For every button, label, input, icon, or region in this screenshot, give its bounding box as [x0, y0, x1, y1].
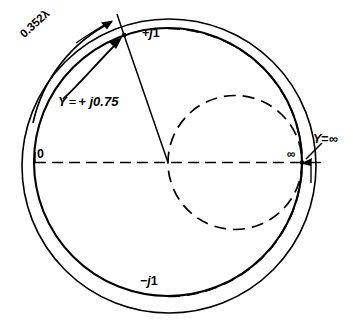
susceptance-bottom-label: −j1: [140, 275, 158, 288]
admittance-value: + j0.75: [78, 94, 118, 109]
susceptance-bottom-value: 1: [151, 274, 158, 288]
infinity-point-marker: [300, 160, 305, 165]
susceptance-top-label: +j1: [142, 27, 160, 40]
admittance-equals: =: [69, 94, 77, 109]
y-infinity-equals: =: [321, 132, 328, 146]
radial-tick-extension: [117, 14, 124, 35]
origin-label-text: 0: [37, 147, 44, 161]
infinity-rim-label: ∞: [287, 148, 296, 160]
y-infinity-label: Y=∞: [313, 133, 338, 146]
smith-chart-figure: 0.352λ Y=+ j0.75 +j1 −j1 0 ∞ Y=∞: [0, 0, 353, 329]
wavelength-label-leader: [76, 25, 104, 43]
susceptance-top-value: 1: [153, 26, 160, 40]
origin-label: 0: [37, 148, 44, 161]
outer-scale-circle: [22, 19, 316, 313]
admittance-point-marker: [122, 33, 127, 38]
infinity-rim-text: ∞: [287, 147, 296, 161]
admittance-y-symbol: Y: [58, 94, 67, 109]
smith-chart-canvas: [0, 0, 353, 329]
radial-line-to-admittance-point: [124, 35, 168, 163]
y-infinity-value: ∞: [329, 132, 338, 146]
wavelength-arc-arrowhead: [101, 21, 113, 30]
admittance-point-label: Y=+ j0.75: [58, 95, 118, 108]
